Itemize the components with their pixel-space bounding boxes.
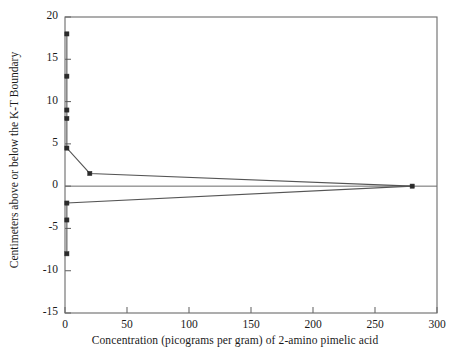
y-axis-tick-label: 5 <box>26 136 58 148</box>
data-point-marker <box>65 32 69 36</box>
x-axis-tick-label: 250 <box>355 318 395 330</box>
data-point-marker <box>65 252 69 256</box>
y-axis-tick-label: 15 <box>26 51 58 63</box>
y-axis-tick-label: -15 <box>26 305 58 317</box>
x-axis-tick-label: 0 <box>45 318 85 330</box>
x-axis-tick-label: 100 <box>169 318 209 330</box>
data-point-marker <box>65 201 69 205</box>
y-axis-label: Centimeters above or below the K-T Bound… <box>8 52 20 268</box>
chart-plot-area <box>0 0 470 356</box>
data-point-marker <box>65 116 69 120</box>
y-axis-tick-label: -10 <box>26 263 58 275</box>
data-line-upper-branch <box>67 34 412 186</box>
y-axis-tick-label: -5 <box>26 220 58 232</box>
data-line-lower-branch <box>67 186 412 254</box>
data-point-marker <box>65 218 69 222</box>
chart-figure: Centimeters above or below the K-T Bound… <box>0 0 470 356</box>
y-axis-tick-label: 20 <box>26 9 58 21</box>
data-point-marker <box>65 108 69 112</box>
y-axis-tick-label: 10 <box>26 94 58 106</box>
data-point-marker <box>65 146 69 150</box>
y-axis-label-container: Centimeters above or below the K-T Bound… <box>0 0 28 320</box>
x-axis-label: Concentration (picograms per gram) of 2-… <box>0 334 470 346</box>
x-axis-tick-label: 50 <box>107 318 147 330</box>
x-axis-tick-label: 300 <box>417 318 457 330</box>
data-point-marker <box>65 74 69 78</box>
data-point-marker <box>88 171 92 175</box>
x-axis-tick-label: 150 <box>231 318 271 330</box>
x-axis-tick-label: 200 <box>293 318 333 330</box>
data-point-marker <box>410 184 414 188</box>
plot-frame <box>65 17 437 313</box>
y-axis-tick-label: 0 <box>26 178 58 190</box>
